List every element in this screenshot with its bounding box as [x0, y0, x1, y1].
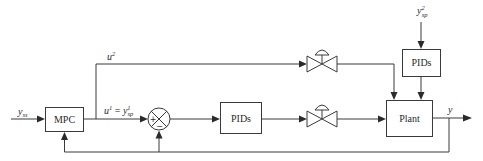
upper-control-valve-icon: [307, 50, 337, 72]
mpc-pid-control-diagram: yss MPC u2 u1 = y1sp + − PIDs: [0, 0, 483, 161]
input-signal-yss: yss: [11, 106, 45, 123]
outer-pids-block: PIDs: [403, 50, 441, 77]
minus-sign: −: [156, 122, 163, 131]
output-label: y: [447, 104, 453, 115]
ysp2-label: y2sp: [416, 4, 428, 18]
mpc-label: MPC: [54, 114, 75, 125]
plant-label: Plant: [399, 113, 420, 124]
u1-label: u1 = y1sp: [104, 104, 134, 117]
summing-junction: + −: [148, 108, 170, 131]
svg-text:yss: yss: [17, 106, 28, 118]
u2-label: u2: [107, 50, 116, 62]
lower-control-valve-icon: [307, 105, 337, 127]
outer-pids-label: PIDs: [411, 57, 431, 68]
plant-block: Plant: [387, 101, 433, 137]
mpc-block: MPC: [46, 108, 84, 132]
output-signal-y: y: [433, 104, 473, 122]
inner-pids-label: PIDs: [231, 113, 251, 124]
inner-pids-block: PIDs: [221, 103, 262, 134]
